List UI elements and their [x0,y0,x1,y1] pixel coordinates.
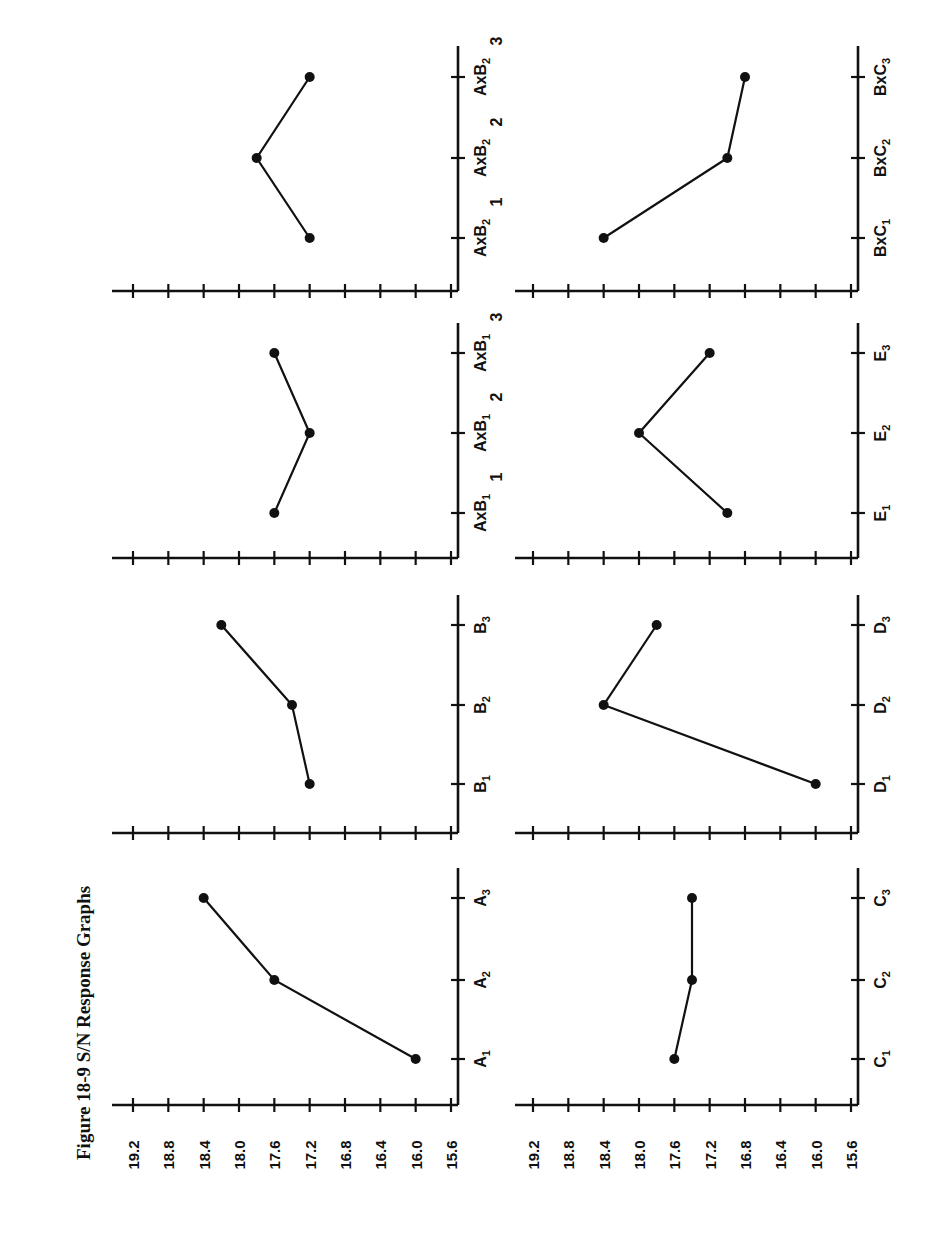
panel-c: 19.218.818.418.017.617.216.816.416.015.6… [515,868,892,1170]
category-label: BxC3 [872,58,892,96]
data-point [811,779,821,789]
category-label: D3 [872,616,892,634]
category-label: BxC2 [872,139,892,177]
category-label: B3 [472,616,492,634]
category-level-label: 2 [488,392,505,401]
data-point [287,700,297,710]
panel-e: E1E2E3 [515,323,892,565]
data-point [305,72,315,82]
panel-axb-2: AxB21AxB22AxB23 [112,36,505,298]
category-label: A2 [472,971,492,989]
data-point [305,779,315,789]
value-tick-label: 19.2 [125,1140,142,1169]
panels-group: 19.218.818.418.017.617.216.816.416.015.6… [112,36,892,1169]
panel-axb-1: AxB11AxB12AxB13 [112,312,505,565]
panel-a: 19.218.818.418.017.617.216.816.416.015.6… [112,868,492,1170]
value-tick-label: 16.0 [808,1140,825,1169]
category-label: AxB1 [472,334,492,372]
category-label: C3 [872,889,892,907]
value-tick-label: 16.0 [408,1140,425,1169]
category-label: E3 [872,345,892,362]
category-label: AxB2 [472,139,492,177]
response-line [639,353,727,513]
panel-d: D1D2D3 [515,595,892,840]
value-tick-label: 17.6 [266,1140,283,1169]
data-point [722,153,732,163]
value-tick-label: 16.4 [372,1140,389,1170]
category-level-label: 3 [488,312,505,321]
category-label: C2 [872,971,892,989]
sn-response-figure: Figure 18-9 S/N Response Graphs 19.218.8… [0,0,949,1248]
category-label: B2 [472,696,492,714]
category-label: AxB2 [472,219,492,257]
data-point [687,975,697,985]
data-point [599,233,609,243]
data-point [652,620,662,630]
value-tick-label: 16.8 [337,1140,354,1169]
category-label: A3 [472,889,492,907]
data-point [722,508,732,518]
data-point [599,700,609,710]
value-tick-label: 15.6 [443,1140,460,1169]
value-tick-label: 18.4 [596,1140,613,1170]
figure-title: Figure 18-9 S/N Response Graphs [73,886,94,1160]
category-label: BxC1 [872,219,892,257]
category-label: B1 [472,775,492,793]
category-label: AxB1 [472,494,492,532]
data-point [252,153,262,163]
category-label: D1 [872,775,892,793]
category-label: AxB2 [472,58,492,96]
category-label: E2 [872,425,892,442]
data-point [305,428,315,438]
category-label: A1 [472,1050,492,1068]
data-point [199,893,209,903]
value-tick-label: 18.8 [560,1140,577,1169]
category-level-label: 2 [488,117,505,126]
category-label: E1 [872,505,892,522]
data-point [669,1054,679,1064]
response-line [204,898,416,1059]
data-point [740,72,750,82]
data-point [269,508,279,518]
category-label: D2 [872,696,892,714]
panel-bxc: BxC1BxC2BxC3 [515,46,892,298]
value-tick-label: 19.2 [525,1140,542,1169]
response-line [274,353,309,513]
data-point [411,1054,421,1064]
value-tick-label: 16.8 [737,1140,754,1169]
data-point [305,233,315,243]
value-tick-label: 17.2 [702,1140,719,1169]
value-tick-label: 18.0 [231,1140,248,1169]
value-tick-label: 15.6 [843,1140,860,1169]
response-line [604,625,816,784]
value-tick-label: 17.2 [302,1140,319,1169]
value-tick-label: 16.4 [772,1140,789,1170]
value-tick-label: 18.4 [196,1140,213,1170]
value-tick-label: 18.0 [631,1140,648,1169]
data-point [269,975,279,985]
data-point [634,428,644,438]
data-point [705,348,715,358]
value-tick-label: 17.6 [666,1140,683,1169]
data-point [687,893,697,903]
category-level-label: 1 [488,472,505,481]
category-label: AxB1 [472,414,492,452]
value-tick-label: 18.8 [160,1140,177,1169]
panel-b: B1B2B3 [112,595,492,840]
data-point [216,620,226,630]
category-level-label: 3 [488,36,505,45]
response-line [257,77,310,238]
category-level-label: 1 [488,197,505,206]
category-label: C1 [872,1050,892,1068]
data-point [269,348,279,358]
